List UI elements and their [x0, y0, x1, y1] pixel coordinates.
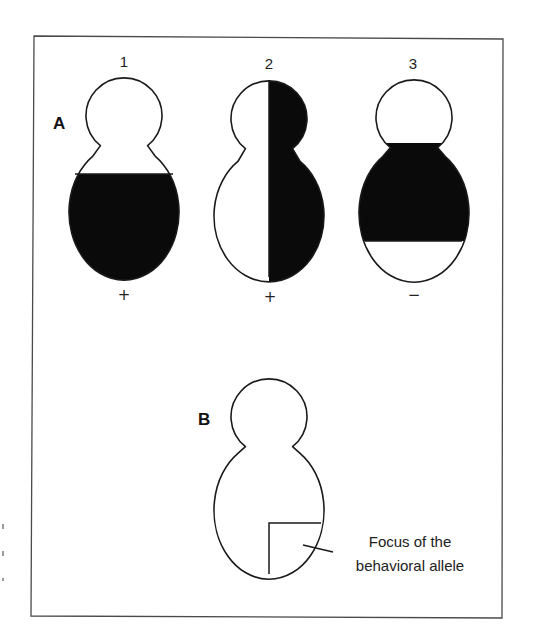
annotation-line-1: Focus of the [369, 533, 452, 550]
fly-2: 2 + [214, 55, 349, 306]
left-margin-marks [2, 524, 4, 581]
panel-b-label: B [198, 410, 210, 429]
fly-1-result: + [118, 286, 131, 304]
fly-1: 1 + [60, 53, 190, 304]
behavioral-focus-bracket [269, 523, 321, 574]
figure-frame [31, 36, 503, 618]
fly-3-shaded-region [350, 143, 480, 241]
fly-2-number: 2 [265, 55, 273, 72]
fly-2-shaded-region [269, 70, 349, 290]
fly-b: Focus of the behavioral allele [214, 379, 464, 579]
panel-a-label: A [53, 114, 65, 133]
fly-3: 3 − [350, 55, 480, 304]
fly-1-shaded-region [60, 174, 190, 284]
genetic-mosaic-figure: A 1 + 2 + 3 − B Focus of the [0, 0, 554, 640]
annotation-pointer-line [303, 545, 333, 552]
fly-1-number: 1 [120, 53, 128, 70]
fly-3-number: 3 [409, 55, 417, 72]
fly-3-result: − [408, 286, 421, 304]
annotation-line-2: behavioral allele [356, 557, 464, 574]
fly-2-result: + [264, 288, 277, 306]
